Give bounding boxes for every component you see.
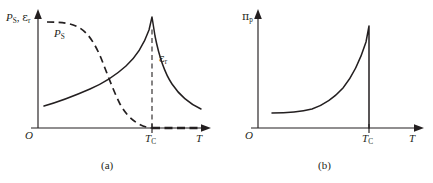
figure-root: PS, εr PS εr O TC T (a) πp [0, 0, 433, 183]
panel-b-origin-label: O [245, 130, 253, 141]
x-axis-arrow-icon [414, 124, 424, 132]
panel-b-plot [220, 0, 433, 183]
panel-a-curve-label-epsilon-r: εr [159, 53, 167, 66]
panel-b-x-axis-label: T [409, 133, 415, 144]
y-axis-arrow-icon [254, 9, 262, 19]
panel-a-caption: (a) [101, 160, 113, 171]
panel-b-y-axis [254, 9, 262, 128]
y-axis-arrow-icon [34, 9, 42, 19]
panel-b-y-axis-label: πp [242, 11, 253, 24]
panel-b-caption: (b) [318, 160, 331, 171]
panel-b-x-axis [251, 124, 424, 132]
panel-a-tc-label: TC [145, 133, 156, 146]
panel-b-tc-label: TC [362, 133, 373, 146]
panel-a-curve-label-ps: PS [54, 28, 65, 41]
curve-epsilon-r [44, 17, 201, 109]
curve-pi-p [272, 26, 369, 128]
panel-a-origin-label: O [25, 130, 33, 141]
panel-a-y-axis-label: PS, εr [6, 12, 30, 25]
panel-b: πp O TC T (b) [220, 0, 433, 183]
panel-a-y-axis [34, 9, 42, 128]
panel-a-x-axis-label: T [196, 133, 202, 144]
x-axis-arrow-icon [201, 124, 211, 132]
panel-a: PS, εr PS εr O TC T (a) [0, 0, 220, 183]
panel-a-plot [0, 0, 220, 183]
